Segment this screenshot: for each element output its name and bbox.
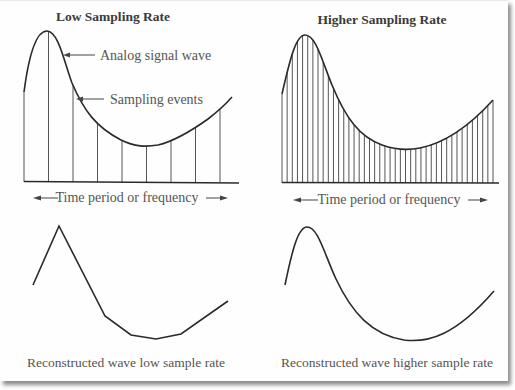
sampling-events-label: Sampling events <box>110 92 203 107</box>
sampling-events-annotation: Sampling events <box>76 92 203 107</box>
arrow-right-icon <box>480 198 488 203</box>
high-rate-caption: Reconstructed wave higher sample rate <box>281 355 493 370</box>
low-rate-title: Low Sampling Rate <box>56 9 170 24</box>
diagram-page: Low Sampling Rate Higher Sampling Rate A… <box>0 0 508 381</box>
analog-signal-annotation: Analog signal wave <box>63 48 211 63</box>
low-rate-caption: Reconstructed wave low sample rate <box>27 355 225 370</box>
high-rate-analog-curve <box>282 35 493 149</box>
high-rate-sample-lines <box>282 35 493 183</box>
analog-signal-label: Analog signal wave <box>100 48 211 63</box>
high-rate-title: Higher Sampling Rate <box>318 12 447 27</box>
high-rate-reconstructed-wave <box>285 227 494 341</box>
sampling-rate-diagram: Low Sampling Rate Higher Sampling Rate A… <box>0 1 515 390</box>
high-rate-axis-label: Time period or frequency <box>293 192 488 207</box>
low-rate-axis-label: Time period or frequency <box>33 190 228 205</box>
arrow-right-icon <box>220 196 228 201</box>
svg-text:Time period or frequency: Time period or frequency <box>56 190 199 205</box>
low-rate-reconstructed-wave <box>33 226 228 339</box>
svg-text:Time period or frequency: Time period or frequency <box>318 192 461 207</box>
high-rate-baseline <box>282 183 499 184</box>
low-rate-baseline <box>24 182 239 184</box>
